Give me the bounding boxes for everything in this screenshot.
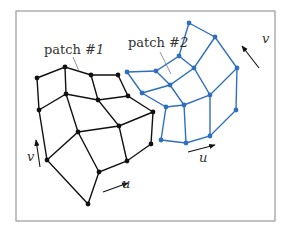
control-point [125, 70, 130, 75]
mesh-line [118, 75, 153, 144]
control-point [117, 124, 122, 129]
leader-line [73, 57, 79, 71]
v-direction-label-1: v [27, 149, 35, 164]
control-point [76, 130, 81, 135]
control-point [192, 66, 197, 71]
control-point [154, 69, 159, 74]
control-point [208, 93, 213, 98]
control-point [116, 73, 121, 78]
mesh-line [127, 72, 166, 140]
control-point [97, 170, 102, 175]
control-point [184, 141, 189, 146]
control-point [89, 73, 94, 78]
control-point [86, 202, 91, 207]
mesh-line [161, 110, 236, 143]
mesh-line [47, 112, 153, 160]
control-point [126, 94, 131, 99]
control-point [64, 92, 69, 97]
control-point [96, 98, 101, 103]
control-point [164, 105, 169, 110]
control-point [208, 134, 213, 139]
mesh-line [39, 94, 128, 110]
control-point [37, 108, 42, 113]
control-point [149, 142, 154, 147]
control-point [45, 158, 50, 163]
control-point [63, 65, 68, 70]
control-point [177, 54, 182, 59]
control-point [234, 108, 239, 113]
mesh-line [88, 144, 151, 204]
control-point [35, 76, 40, 81]
control-point [151, 110, 156, 115]
control-point [125, 159, 130, 164]
v-direction-label-2: v [262, 31, 270, 46]
control-point [140, 91, 145, 96]
mesh-line [166, 68, 237, 107]
control-point [187, 21, 192, 26]
patch-1-label: patch #1 [44, 42, 104, 57]
control-point [159, 138, 164, 143]
control-point [213, 35, 218, 40]
control-point [182, 103, 187, 108]
u-direction-label-2: u [199, 150, 207, 165]
patch-2-label: patch #2 [128, 35, 188, 50]
control-point [168, 83, 173, 88]
control-point [235, 66, 240, 71]
v-arrow-icon [242, 46, 259, 68]
mesh-line [37, 67, 118, 78]
patch-1-mesh [37, 67, 153, 204]
bezier-patches-diagram: patch #1 patch #2 u v u v [0, 0, 290, 232]
v-arrow-icon [36, 140, 40, 167]
mesh-line [91, 75, 127, 161]
mesh-line [65, 67, 99, 172]
u-direction-label-1: u [122, 176, 130, 191]
